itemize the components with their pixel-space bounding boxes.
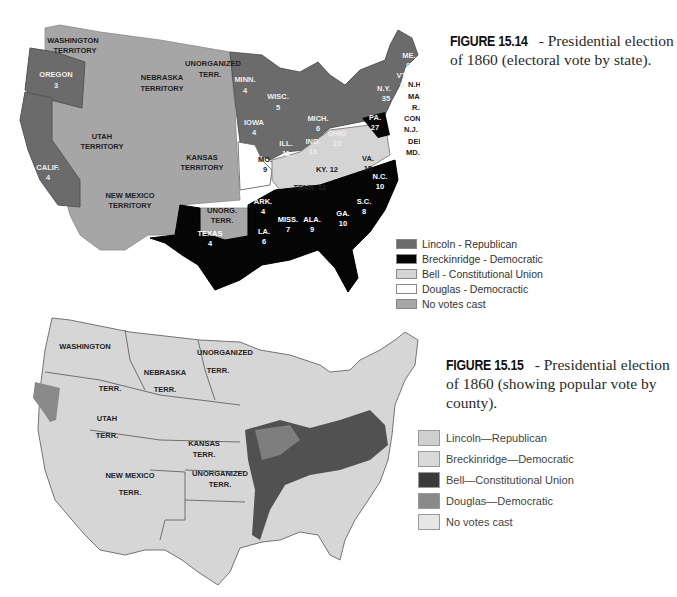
- swatch-no-votes: [418, 514, 440, 530]
- svg-text:UNORG.: UNORG.: [207, 206, 237, 215]
- legend-item-lincoln: Lincoln - Republican: [396, 236, 543, 251]
- svg-text:TEXAS: TEXAS: [197, 229, 222, 238]
- svg-text:UNORGANIZED: UNORGANIZED: [197, 348, 253, 357]
- swatch-no-votes: [396, 299, 417, 309]
- swatch-douglas: [418, 493, 440, 509]
- legend-item-douglas: Douglas—Democratic: [418, 490, 574, 511]
- svg-text:UNORGANIZED: UNORGANIZED: [192, 469, 248, 478]
- svg-text:NEBRASKA: NEBRASKA: [141, 73, 184, 82]
- legend-figure-15-15: Lincoln—Republican Breckinridge—Democrat…: [418, 427, 574, 532]
- legend-figure-15-14: Lincoln - Republican Breckinridge - Demo…: [396, 236, 543, 311]
- svg-text:TERR.: TERR.: [193, 450, 216, 459]
- legend-item-bell: Bell - Constitutional Union: [396, 266, 543, 281]
- svg-text:8: 8: [362, 207, 366, 216]
- svg-text:VA.: VA.: [362, 154, 374, 163]
- svg-text:8: 8: [406, 61, 410, 70]
- svg-text:WASHINGTON: WASHINGTON: [59, 342, 111, 351]
- svg-text:ARK.: ARK.: [254, 197, 272, 206]
- svg-text:CONN. 6: CONN. 6: [404, 114, 420, 123]
- svg-text:KANSAS: KANSAS: [186, 153, 218, 162]
- swatch-lincoln: [418, 430, 440, 446]
- svg-text:TERR.: TERR.: [119, 488, 142, 497]
- legend-item-bell: Bell—Constitutional Union: [418, 469, 574, 490]
- svg-text:N.H. 5: N.H. 5: [408, 80, 420, 89]
- svg-text:UTAH: UTAH: [92, 132, 112, 141]
- svg-text:TERR.: TERR.: [99, 384, 122, 393]
- svg-text:UNORGANIZED: UNORGANIZED: [185, 59, 241, 68]
- svg-text:OREGON: OREGON: [39, 70, 72, 79]
- figure-number: FIGURE 15.14: [450, 31, 528, 50]
- svg-text:PA.: PA.: [369, 113, 381, 122]
- electoral-map-1860: WASHINGTON TERRITORY OREGON 3 NEBRASKA T…: [0, 0, 420, 300]
- svg-text:WISC.: WISC.: [267, 92, 289, 101]
- swatch-douglas: [396, 284, 417, 294]
- svg-text:KANSAS: KANSAS: [188, 439, 220, 448]
- svg-text:TERRITORY: TERRITORY: [109, 201, 152, 210]
- svg-text:N.J. 4&3: N.J. 4&3: [404, 125, 420, 134]
- svg-text:OHIO: OHIO: [327, 129, 346, 138]
- svg-text:TERR.: TERR.: [199, 70, 222, 79]
- svg-text:3: 3: [54, 81, 58, 90]
- swatch-lincoln: [396, 239, 417, 249]
- svg-text:TERR.: TERR.: [211, 216, 234, 225]
- svg-text:13: 13: [309, 147, 317, 156]
- svg-text:IOWA: IOWA: [244, 118, 265, 127]
- svg-text:TERR.: TERR.: [154, 385, 177, 394]
- svg-text:MINN.: MINN.: [234, 75, 255, 84]
- svg-text:9: 9: [263, 165, 267, 174]
- svg-text:6: 6: [316, 124, 320, 133]
- swatch-bell: [396, 269, 417, 279]
- svg-text:MASS. 13: MASS. 13: [408, 92, 420, 101]
- svg-text:NEW MEXICO: NEW MEXICO: [105, 471, 154, 480]
- svg-text:15: 15: [364, 164, 372, 173]
- svg-text:LA.: LA.: [258, 227, 270, 236]
- svg-text:DEL. 3: DEL. 3: [408, 137, 420, 146]
- svg-text:9: 9: [310, 225, 314, 234]
- svg-text:TERRITORY: TERRITORY: [181, 163, 224, 172]
- svg-text:MICH.: MICH.: [307, 114, 328, 123]
- svg-text:R.I. 4: R.I. 4: [412, 103, 420, 112]
- svg-text:CALIF.: CALIF.: [36, 163, 59, 172]
- svg-text:MISS.: MISS.: [278, 215, 298, 224]
- svg-text:35: 35: [382, 94, 390, 103]
- svg-text:TERRITORY: TERRITORY: [81, 142, 124, 151]
- swatch-breckinridge: [396, 254, 417, 264]
- region-california-douglas: [33, 382, 60, 422]
- svg-text:27: 27: [371, 123, 379, 132]
- svg-text:10: 10: [339, 219, 347, 228]
- svg-text:TERR.: TERR.: [96, 431, 119, 440]
- svg-text:TERR.: TERR.: [209, 480, 232, 489]
- svg-text:MO.: MO.: [258, 155, 272, 164]
- svg-text:NEW MEXICO: NEW MEXICO: [105, 191, 154, 200]
- svg-text:7: 7: [286, 225, 290, 234]
- legend-item-breckinridge: Breckinridge—Democratic: [418, 448, 574, 469]
- svg-text:6: 6: [262, 237, 266, 246]
- caption-figure-15-14: FIGURE 15.14 - Presidential election of …: [450, 31, 677, 69]
- svg-text:KY. 12: KY. 12: [316, 165, 338, 174]
- svg-text:ALA.: ALA.: [303, 215, 321, 224]
- svg-text:UTAH: UTAH: [97, 414, 117, 423]
- svg-text:WASHINGTON: WASHINGTON: [47, 36, 99, 45]
- svg-text:10: 10: [376, 182, 384, 191]
- legend-item-lincoln: Lincoln—Republican: [418, 427, 574, 448]
- svg-text:23: 23: [333, 139, 341, 148]
- legend-item-no-votes: No votes cast: [396, 296, 543, 311]
- popular-vote-map-1860: WASHINGTON TERR. NEBRASKA TERR. UNORGANI…: [0, 310, 420, 597]
- svg-text:11: 11: [282, 149, 290, 158]
- svg-text:ME.: ME.: [402, 51, 415, 60]
- swatch-bell: [418, 472, 440, 488]
- svg-text:N.Y.: N.Y.: [377, 84, 391, 93]
- svg-text:TERRITORY: TERRITORY: [141, 84, 184, 93]
- svg-text:IND.: IND.: [306, 137, 321, 146]
- svg-text:N.C.: N.C.: [373, 172, 388, 181]
- legend-item-douglas: Douglas - Democractic: [396, 281, 543, 296]
- svg-text:TERR.: TERR.: [207, 366, 230, 375]
- svg-text:TENN. 12: TENN. 12: [294, 183, 327, 192]
- svg-text:NEBRASKA: NEBRASKA: [144, 368, 187, 377]
- legend-item-breckinridge: Breckinridge - Democratic: [396, 251, 543, 266]
- svg-text:S.C.: S.C.: [357, 197, 372, 206]
- figure-number: FIGURE 15.15: [446, 355, 524, 374]
- svg-text:5: 5: [400, 81, 404, 90]
- svg-text:FLA.: FLA.: [357, 261, 374, 270]
- legend-item-no-votes: No votes cast: [418, 511, 574, 532]
